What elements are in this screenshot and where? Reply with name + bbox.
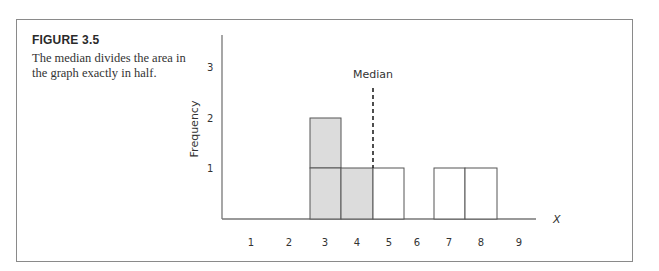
x-tick-9: 9 xyxy=(516,237,522,248)
y-tick-2: 2 xyxy=(207,113,213,124)
x-tick-7: 7 xyxy=(446,237,452,248)
y-axis-label: Frequency xyxy=(188,100,201,157)
x-tick-3: 3 xyxy=(322,237,328,248)
box-x4-level1 xyxy=(341,168,373,219)
x-tick-6: 6 xyxy=(414,237,420,248)
x-tick-2: 2 xyxy=(286,237,292,248)
x-tick-5: 5 xyxy=(386,237,392,248)
box-x7-level1 xyxy=(434,168,465,219)
x-tick-8: 8 xyxy=(478,237,484,248)
box-x8-level1 xyxy=(465,168,497,219)
median-label: Median xyxy=(353,68,393,81)
x-tick-1: 1 xyxy=(248,237,254,248)
box-x3-level2 xyxy=(310,118,341,168)
histogram-chart: 3 2 1 Frequency Median 1 2 3 4 5 6 7 8 9… xyxy=(0,0,659,271)
box-x3-level1 xyxy=(310,168,341,219)
box-x5-level1 xyxy=(373,168,404,219)
x-axis-label: X xyxy=(552,213,561,226)
y-tick-3: 3 xyxy=(207,62,213,73)
x-tick-4: 4 xyxy=(354,237,360,248)
y-tick-1: 1 xyxy=(207,163,213,174)
